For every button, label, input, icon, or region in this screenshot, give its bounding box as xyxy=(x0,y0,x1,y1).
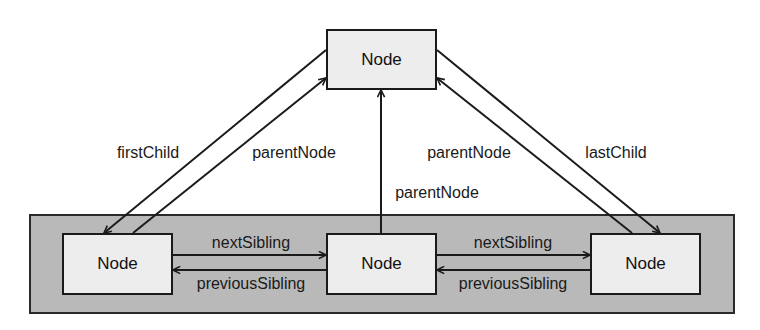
edge-label-next-sibling-1: nextSibling xyxy=(212,234,290,252)
arrow-last-child xyxy=(437,50,660,233)
arrow-first-child xyxy=(104,50,326,233)
node-label: Node xyxy=(625,254,666,274)
node-box-last: Node xyxy=(590,233,701,295)
edge-label-previous-sibling-1: previousSibling xyxy=(197,275,306,293)
node-label: Node xyxy=(361,254,402,274)
edge-label-next-sibling-2: nextSibling xyxy=(474,234,552,252)
edge-label-parent-node-left: parentNode xyxy=(252,144,336,162)
node-box-middle: Node xyxy=(326,233,437,295)
edge-label-parent-node-right: parentNode xyxy=(427,144,511,162)
edge-label-last-child: lastChild xyxy=(585,144,646,162)
node-label: Node xyxy=(361,50,402,70)
node-box-first: Node xyxy=(62,233,173,295)
edge-label-first-child: firstChild xyxy=(117,144,179,162)
node-label: Node xyxy=(97,254,138,274)
node-box-parent: Node xyxy=(326,29,437,90)
edge-label-previous-sibling-2: previousSibling xyxy=(459,275,568,293)
edge-label-parent-node-middle: parentNode xyxy=(395,184,479,202)
